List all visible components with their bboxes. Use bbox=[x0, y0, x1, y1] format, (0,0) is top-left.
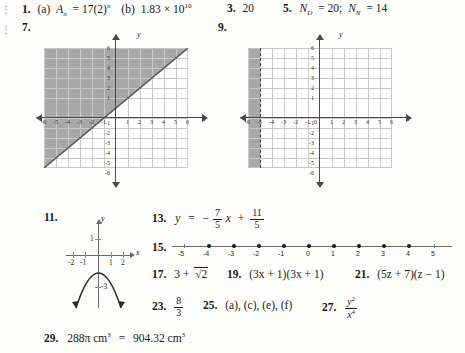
graph-problem-7: y x bbox=[36, 30, 211, 190]
graph7-x-axis-arrow-right bbox=[202, 114, 208, 122]
answer-27-denominator-exponent: 4 bbox=[352, 308, 355, 315]
graph7-y-tick: 1 bbox=[107, 95, 110, 101]
answer-number-3: 3. bbox=[227, 2, 236, 14]
graph9-y-tick: 4 bbox=[311, 65, 314, 71]
graph7-y-axis-arrow-up bbox=[112, 34, 120, 40]
answer-number-19: 19. bbox=[227, 268, 241, 280]
graph9-x-tick: 3 bbox=[354, 119, 357, 125]
answer-3-value: 20 bbox=[243, 2, 255, 14]
answer-13-variable: x bbox=[226, 212, 231, 224]
graph9-y-tick: -4 bbox=[309, 150, 314, 156]
graph7-x-axis bbox=[36, 117, 204, 118]
graph9-x-tick: 1 bbox=[330, 119, 333, 125]
answer-number-7: 7. bbox=[22, 21, 31, 33]
answer-number-1: 1. bbox=[22, 3, 31, 15]
answer-row-7: 7. bbox=[22, 21, 31, 33]
answer-5-end: = 14 bbox=[366, 2, 387, 14]
graph9-x-tick-zero: 0 bbox=[314, 119, 317, 125]
graph9-gridline-v bbox=[356, 48, 357, 168]
graph7-x-tick: -4 bbox=[65, 119, 70, 125]
graph9-x-tick: -3 bbox=[281, 119, 286, 125]
graph7-y-tick: -5 bbox=[105, 160, 110, 166]
graph9-gridline-v bbox=[248, 48, 249, 168]
graph7-x-tick: -6 bbox=[41, 119, 46, 125]
answer-row-11: 11. bbox=[44, 211, 58, 223]
graph9-y-tick: 3 bbox=[311, 75, 314, 81]
graph9-gridline-v bbox=[296, 48, 297, 168]
answer-13-fraction-2-denominator: 5 bbox=[250, 220, 264, 231]
graph9-y-tick: -6 bbox=[309, 170, 314, 176]
answer-number-25: 25. bbox=[203, 299, 217, 311]
graph9-x-tick: -6 bbox=[245, 119, 250, 125]
graph9-shaded-region bbox=[248, 48, 260, 168]
answer-row-15: 15. bbox=[152, 241, 166, 253]
answer-27-numerator-exponent: 2 bbox=[352, 295, 355, 302]
number-line-label: -5 bbox=[178, 250, 184, 257]
graph7-x-tick: -5 bbox=[53, 119, 58, 125]
answer-number-21: 21. bbox=[355, 268, 369, 280]
answer-17-radical: √2 bbox=[194, 268, 208, 280]
answer-13-lhs: y bbox=[175, 212, 180, 224]
number-line-label: 1 bbox=[331, 250, 335, 257]
number-line-label: -1 bbox=[278, 250, 284, 257]
answer-13-sign: − bbox=[203, 212, 210, 224]
answer-5-middle: = 20; bbox=[318, 2, 342, 14]
graph7-y-tick: -6 bbox=[105, 170, 110, 176]
answer-13-fraction-1-numerator: 7 bbox=[213, 208, 222, 220]
graph9-gridline-v bbox=[391, 48, 392, 168]
answer-5-subscript-d: D bbox=[307, 9, 312, 17]
graph9-x-tick: -4 bbox=[269, 119, 274, 125]
answer-row-19: 19. (3x + 1)(3x + 1) bbox=[227, 268, 324, 280]
graph9-y-tick: 6 bbox=[311, 45, 314, 51]
graph7-x-tick: 1 bbox=[126, 119, 129, 125]
answer-23-denominator: 3 bbox=[174, 308, 183, 319]
answer-number-27: 27. bbox=[322, 301, 336, 313]
answer-number-9: 9. bbox=[218, 21, 227, 33]
answer-row-29: 29. 288π cm3 = 904.32 cm3 bbox=[44, 331, 185, 344]
answer-25-value: (a), (c), (e), (f) bbox=[225, 299, 292, 311]
answer-number-15: 15. bbox=[152, 241, 166, 253]
graph9-y-tick: -3 bbox=[309, 140, 314, 146]
answer-number-11: 11. bbox=[44, 211, 58, 223]
graph9-gridline-v bbox=[272, 48, 273, 168]
graph9-y-tick: -2 bbox=[309, 130, 314, 136]
answer-17-value: 3 + bbox=[174, 268, 189, 280]
graph7-y-tick: -4 bbox=[105, 150, 110, 156]
number-line-point bbox=[232, 244, 236, 248]
number-line-label: 5 bbox=[431, 250, 435, 257]
graph9-y-axis-arrow-up bbox=[316, 34, 324, 40]
graph7-y-axis-arrow-down bbox=[112, 182, 120, 188]
graph7-x-tick: -2 bbox=[89, 119, 94, 125]
graph9-gridline-v bbox=[284, 48, 285, 168]
graph9-gridline-v bbox=[368, 48, 369, 168]
answer-row-3: 3. 20 bbox=[227, 2, 254, 14]
answer-23-fraction: 8 3 bbox=[174, 296, 183, 318]
number-line-point bbox=[357, 244, 361, 248]
answer-27-fraction: y2 x4 bbox=[345, 296, 357, 321]
graph7-y-tick: -3 bbox=[105, 140, 110, 146]
answer-1b-label: (b) bbox=[121, 3, 134, 15]
answer-row-9: 9. bbox=[218, 21, 227, 33]
answer-23-numerator: 8 bbox=[174, 296, 183, 308]
answer-row-5: 5. ND = 20; NN = 14 bbox=[283, 2, 387, 17]
answer-row-1: 1. (a) An = 17(2)n (b) 1.83 × 1010 bbox=[22, 2, 192, 18]
graph-problem-9: y x -6 -5 -4 bbox=[240, 30, 420, 190]
number-line-point bbox=[407, 244, 411, 248]
answer-row-21: 21. (5z + 7)(z − 1) bbox=[355, 268, 445, 280]
graph7-y-tick: 5 bbox=[107, 55, 110, 61]
graph9-y-axis-arrow-down bbox=[316, 182, 324, 188]
graph9-y-axis-label: y bbox=[339, 30, 343, 39]
graph9-x-axis bbox=[240, 117, 408, 118]
answer-13-plus: + bbox=[238, 212, 245, 224]
answer-number-17: 17. bbox=[152, 268, 166, 280]
graph9-y-tick: -1 bbox=[309, 120, 314, 126]
answer-row-27: 27. y2 x4 bbox=[322, 296, 358, 321]
graph9-x-axis-arrow-right bbox=[406, 114, 412, 122]
number-line-point bbox=[257, 244, 261, 248]
number-line-label: 0 bbox=[306, 250, 310, 257]
graph7-y-tick: -1 bbox=[105, 120, 110, 126]
graph7-x-tick: 6 bbox=[186, 119, 189, 125]
graph9-x-tick: -5 bbox=[257, 119, 262, 125]
answer-5-subscript-n: N bbox=[356, 9, 361, 17]
graph9-y-tick: 2 bbox=[311, 85, 314, 91]
